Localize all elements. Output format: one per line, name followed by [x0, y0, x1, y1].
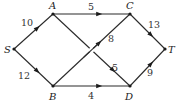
edge-weight-label: 5	[112, 62, 118, 73]
edge-weight-label: 8	[108, 33, 114, 44]
edges-group	[14, 12, 165, 88]
edge-weight-label: 9	[147, 67, 153, 78]
edge-s-a	[14, 14, 53, 49]
edge-weight-label: 10	[21, 17, 33, 28]
node-label-t: T	[168, 44, 176, 55]
edge-weight-label: 4	[88, 90, 94, 101]
node-b	[51, 84, 54, 87]
node-c	[128, 12, 131, 15]
node-s	[12, 47, 15, 50]
node-t	[163, 47, 166, 50]
node-label-a: A	[48, 0, 56, 11]
node-label-c: C	[126, 0, 134, 11]
edge-weight-label: 5	[88, 1, 94, 12]
node-label-b: B	[48, 91, 56, 102]
edge-weight-label: 12	[18, 70, 30, 81]
edge-weight-label: 13	[148, 19, 160, 30]
node-label-d: D	[124, 91, 133, 102]
node-d	[128, 84, 131, 87]
network-diagram: 10125584139SACTBD	[0, 0, 176, 102]
arrowhead-icon	[96, 84, 102, 88]
arrowhead-icon	[96, 12, 102, 16]
node-label-s: S	[4, 44, 11, 55]
node-a	[51, 12, 54, 15]
